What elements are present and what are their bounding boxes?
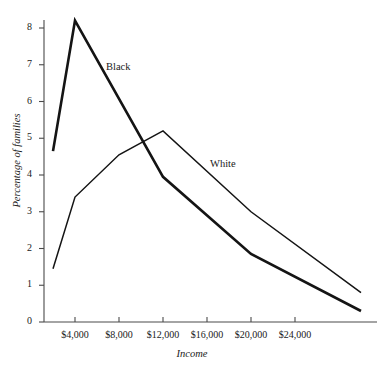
chart-figure: 012345678 $4,000$8,000$12,000$16,000$20,… [0,0,377,365]
y-tick-label-0: 0 [16,315,32,326]
series-group [53,21,361,311]
x-axis-ticks [75,317,295,322]
axes-group [39,20,377,322]
series-line-black [53,21,361,311]
y-tick-label-2: 2 [16,242,32,253]
y-axis-ticks [39,28,44,322]
y-tick-label-1: 1 [16,278,32,289]
series-line-white [53,131,361,293]
series-label-white: White [210,158,236,169]
y-axis-title: Percentage of families [11,101,22,221]
x-tick-label-$24,000: $24,000 [265,329,325,340]
y-tick-label-7: 7 [16,58,32,69]
y-tick-label-8: 8 [16,21,32,32]
line-chart-canvas [0,0,377,365]
x-axis-title: Income [152,348,232,359]
series-label-black: Black [106,61,131,72]
